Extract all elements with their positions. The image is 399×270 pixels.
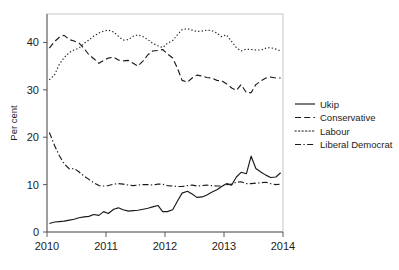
y-tick-label: 0 [33, 226, 39, 238]
y-axis-title: Per cent [8, 105, 19, 141]
chart-figure: 010203040 20102011201220132014 Per cent … [0, 0, 399, 270]
x-tick-label: 2014 [271, 240, 295, 252]
x-tick-label: 2012 [153, 240, 177, 252]
x-tick-label: 2011 [94, 240, 118, 252]
chart-legend: UkipConservativeLabourLiberal Democrat [295, 99, 393, 151]
x-tick-label: 2010 [35, 240, 59, 252]
y-axis-ticks: 010203040 [27, 36, 47, 238]
y-tick-label: 20 [27, 131, 39, 143]
series-line-liberal-democrat [49, 132, 280, 186]
series-line-conservative [49, 35, 280, 92]
legend-label-conservative: Conservative [320, 112, 375, 123]
y-tick-label: 10 [27, 179, 39, 191]
y-tick-label: 40 [27, 36, 39, 48]
legend-label-liberal-democrat: Liberal Democrat [320, 139, 393, 150]
legend-label-ukip: Ukip [320, 99, 339, 110]
x-axis-ticks: 20102011201220132014 [35, 232, 295, 252]
series-line-ukip [49, 156, 280, 223]
chart-svg: 010203040 20102011201220132014 Per cent … [0, 0, 399, 270]
legend-label-labour: Labour [320, 126, 350, 137]
x-tick-label: 2013 [212, 240, 236, 252]
series-lines [49, 29, 280, 224]
series-line-labour [49, 29, 280, 80]
y-tick-label: 30 [27, 84, 39, 96]
